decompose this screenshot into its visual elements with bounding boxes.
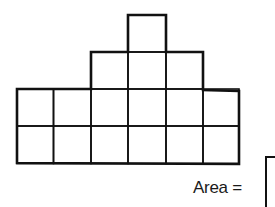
unit-square: [54, 89, 92, 126]
area-answer-box[interactable]: [265, 156, 275, 207]
unit-square: [128, 52, 166, 89]
unit-square: [128, 89, 166, 126]
unit-square: [91, 52, 128, 89]
unit-square: [54, 126, 92, 164]
unit-square: [166, 89, 203, 126]
unit-square: [203, 89, 239, 126]
grid-shape-figure: [0, 0, 275, 207]
unit-square: [91, 126, 128, 164]
unit-square: [128, 15, 166, 52]
unit-square: [166, 126, 203, 164]
unit-square: [166, 52, 203, 89]
unit-square: [17, 126, 54, 164]
unit-square: [17, 89, 54, 126]
unit-square: [128, 126, 166, 164]
unit-square: [203, 126, 239, 164]
unit-square: [91, 89, 128, 126]
area-label: Area =: [193, 178, 242, 198]
